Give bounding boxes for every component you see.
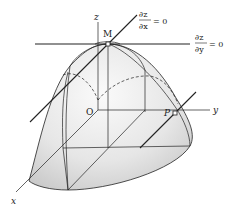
annotation-dzdy: ∂z ∂y = 0 bbox=[195, 33, 223, 54]
x-axis-label: x bbox=[11, 196, 16, 206]
point-m-label: M bbox=[103, 29, 112, 39]
svg-text:∂y: ∂y bbox=[195, 45, 204, 54]
svg-text:∂z: ∂z bbox=[195, 33, 203, 42]
point-p-marker bbox=[173, 111, 177, 115]
svg-text:∂z: ∂z bbox=[139, 10, 147, 19]
point-p-label: P bbox=[163, 108, 171, 118]
paraboloid-diagram: z y x O M P ∂z ∂x = 0 ∂z ∂y = 0 bbox=[0, 0, 233, 208]
annotation-dzdx: ∂z ∂x = 0 bbox=[139, 10, 167, 31]
svg-text:∂x: ∂x bbox=[139, 22, 148, 31]
z-axis-label: z bbox=[93, 12, 99, 22]
origin-label: O bbox=[86, 107, 93, 117]
y-axis-label: y bbox=[212, 105, 219, 115]
svg-text:= 0: = 0 bbox=[153, 17, 167, 26]
point-m-marker bbox=[106, 42, 110, 46]
svg-text:= 0: = 0 bbox=[209, 40, 223, 49]
